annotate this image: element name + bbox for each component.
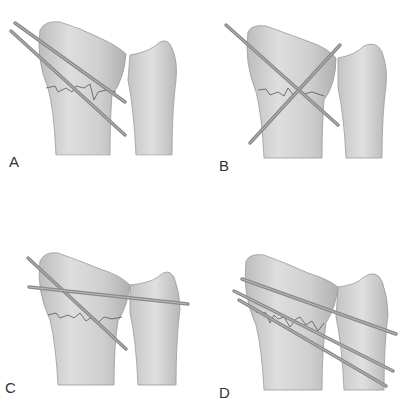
panel-c: C (0, 205, 200, 409)
panel-label-d: D (219, 384, 230, 401)
bone-fixation-illustration-c (0, 205, 200, 409)
panel-label-c: C (5, 379, 16, 396)
panel-d: D (200, 205, 400, 409)
panel-label-a: A (9, 153, 19, 170)
panel-a: A (0, 0, 200, 204)
panel-label-b: B (219, 157, 229, 174)
bone-fixation-illustration-a (0, 0, 200, 204)
bone-fixation-illustration-b (200, 0, 401, 205)
bone-fixation-illustration-d (200, 205, 401, 409)
panel-b: B (200, 0, 400, 204)
